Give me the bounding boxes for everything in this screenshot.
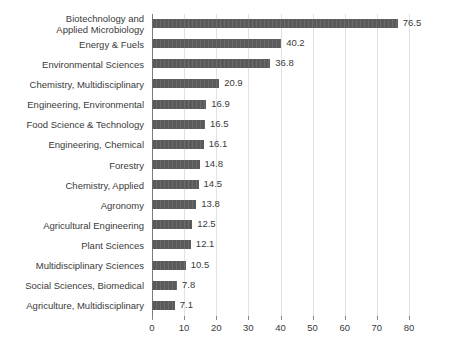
category-label: Engineering, Environmental: [27, 99, 144, 110]
bar-row: 36.8: [152, 54, 409, 74]
bar: [152, 100, 206, 109]
x-axis: 01020304050607080: [152, 316, 409, 342]
x-axis-tick: [248, 316, 249, 320]
x-axis-tick: [281, 316, 282, 320]
x-axis-tick-label: 50: [307, 322, 318, 334]
bar-row: 14.5: [152, 175, 409, 195]
bar-row: 10.5: [152, 256, 409, 276]
bar-value-label: 10.5: [191, 259, 210, 271]
bar: [152, 240, 191, 249]
category-label: Biotechnology andApplied Microbiology: [26, 13, 144, 35]
category-label: Chemistry, Multidisciplinary: [30, 79, 144, 90]
bar-value-label: 40.2: [286, 37, 305, 49]
bar-chart: Biotechnology andApplied MicrobiologyEne…: [0, 0, 449, 349]
category-label-line: Agriculture, Multidisciplinary: [26, 300, 144, 311]
bar: [152, 301, 175, 310]
bar-row: 76.5: [152, 14, 409, 34]
category-label-line: Environmental Sciences: [42, 59, 144, 70]
bar-value-label: 20.9: [224, 77, 243, 89]
category-label: Energy & Fuels: [79, 39, 144, 50]
bar-value-label: 36.8: [275, 57, 294, 69]
bar: [152, 140, 204, 149]
category-label: Environmental Sciences: [42, 59, 144, 70]
category-label-line: Forestry: [109, 160, 144, 171]
bar: [152, 180, 199, 189]
bar-value-label: 13.8: [201, 198, 220, 210]
bar: [152, 120, 205, 129]
category-label-line: Social Sciences, Biomedical: [25, 280, 144, 291]
bar-value-label: 14.8: [205, 158, 224, 170]
category-label-line: Biotechnology and: [66, 13, 144, 24]
category-label: Plant Sciences: [81, 240, 144, 251]
x-axis-tick-label: 80: [404, 322, 415, 334]
bar: [152, 220, 192, 229]
bar-row: 20.9: [152, 74, 409, 94]
category-label: Forestry: [109, 160, 144, 171]
category-label: Chemistry, Applied: [66, 180, 145, 191]
x-axis-tick-label: 10: [179, 322, 190, 334]
bar-row: 16.1: [152, 135, 409, 155]
bar: [152, 59, 270, 68]
x-axis-tick: [409, 316, 410, 320]
bar: [152, 19, 398, 28]
category-label-line: Chemistry, Applied: [66, 180, 145, 191]
bar-row: 7.1: [152, 296, 409, 316]
category-label-line: Engineering, Chemical: [48, 139, 144, 150]
bar-row: 12.5: [152, 215, 409, 235]
x-axis-tick-label: 20: [211, 322, 222, 334]
bar-value-label: 16.1: [209, 138, 228, 150]
bar-value-label: 16.9: [211, 98, 230, 110]
category-label: Food Science & Technology: [26, 119, 144, 130]
category-label: Engineering, Chemical: [48, 139, 144, 150]
x-axis-tick: [345, 316, 346, 320]
bar: [152, 281, 177, 290]
bar-series: 76.540.236.820.916.916.516.114.814.513.8…: [152, 14, 409, 316]
x-axis-tick: [184, 316, 185, 320]
bar: [152, 79, 219, 88]
category-label-line: Agronomy: [101, 200, 144, 211]
bar-row: 14.8: [152, 155, 409, 175]
bar-value-label: 12.5: [197, 218, 216, 230]
category-label-line: Food Science & Technology: [26, 119, 144, 130]
bar-value-label: 7.1: [180, 299, 193, 311]
category-label: Agricultural Engineering: [43, 220, 144, 231]
category-label-line: Energy & Fuels: [79, 39, 144, 50]
x-axis-tick-label: 0: [149, 322, 154, 334]
bar-value-label: 7.8: [182, 279, 195, 291]
category-label-line: Plant Sciences: [81, 240, 144, 251]
bar: [152, 160, 200, 169]
x-axis-tick: [216, 316, 217, 320]
x-axis-tick-label: 70: [372, 322, 383, 334]
bar-row: 7.8: [152, 276, 409, 296]
category-label-line: Applied Microbiology: [56, 24, 144, 35]
x-axis-tick-label: 30: [243, 322, 254, 334]
plot-area: 76.540.236.820.916.916.516.114.814.513.8…: [152, 14, 409, 316]
category-label-line: Multidisciplinary Sciences: [36, 260, 144, 271]
bar: [152, 200, 196, 209]
bar-value-label: 16.5: [210, 118, 229, 130]
category-label: Agronomy: [101, 200, 144, 211]
x-axis-tick-label: 40: [275, 322, 286, 334]
bar-value-label: 14.5: [204, 178, 223, 190]
bar-row: 12.1: [152, 235, 409, 255]
category-label: Agriculture, Multidisciplinary: [26, 300, 144, 311]
bar: [152, 261, 186, 270]
bar: [152, 39, 281, 48]
category-label-line: Chemistry, Multidisciplinary: [30, 79, 144, 90]
category-label: Social Sciences, Biomedical: [25, 280, 144, 291]
bar-value-label: 76.5: [403, 17, 422, 29]
bar-row: 16.9: [152, 95, 409, 115]
category-axis-labels: Biotechnology andApplied MicrobiologyEne…: [0, 14, 148, 316]
bar-value-label: 12.1: [196, 238, 215, 250]
gridline: [409, 14, 410, 316]
x-axis-tick: [152, 316, 153, 320]
x-axis-tick: [313, 316, 314, 320]
bar-row: 40.2: [152, 34, 409, 54]
bar-row: 16.5: [152, 115, 409, 135]
category-label-line: Agricultural Engineering: [43, 220, 144, 231]
category-label: Multidisciplinary Sciences: [36, 260, 144, 271]
x-axis-tick: [377, 316, 378, 320]
bar-row: 13.8: [152, 195, 409, 215]
category-label-line: Engineering, Environmental: [27, 99, 144, 110]
x-axis-tick-label: 60: [339, 322, 350, 334]
